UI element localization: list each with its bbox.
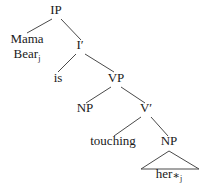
node-her-label: her: [156, 166, 173, 181]
node-vp-label: VP: [108, 70, 125, 85]
node-v-bar: V′: [140, 101, 152, 115]
i-bar-prime-mark: ′: [81, 37, 84, 52]
branch-lines: [27, 19, 168, 136]
subject-line-1: Mama: [10, 31, 43, 46]
node-np-subject-trace-label: NP: [77, 100, 94, 115]
node-i-bar: I′: [76, 38, 83, 52]
node-np-subject-trace: NP: [77, 101, 94, 115]
node-vp: VP: [108, 71, 125, 85]
node-touching-label: touching: [90, 133, 136, 148]
node-np-object-label: NP: [161, 133, 178, 148]
node-ip: IP: [50, 3, 62, 17]
node-v-bar-label: V: [140, 100, 149, 115]
syntax-tree-figure: IP MamaBearj I′ is VP NP V′ touching NP …: [0, 0, 212, 190]
node-np-object: NP: [161, 134, 178, 148]
node-touching: touching: [90, 134, 136, 148]
ungrammatical-star-icon: ∗: [172, 169, 179, 181]
node-is-label: is: [54, 70, 63, 85]
v-bar-prime-mark: ′: [149, 100, 152, 115]
subject-line-2: Bear: [14, 46, 39, 61]
node-subject-mama-bear: MamaBearj: [10, 31, 43, 63]
subject-index-subscript: j: [38, 54, 40, 63]
node-is: is: [54, 71, 63, 85]
tree-branches-svg: [0, 0, 212, 190]
node-ip-label: IP: [50, 2, 62, 17]
node-her: her∗j: [156, 167, 182, 183]
her-index-subscript: j: [180, 174, 182, 183]
